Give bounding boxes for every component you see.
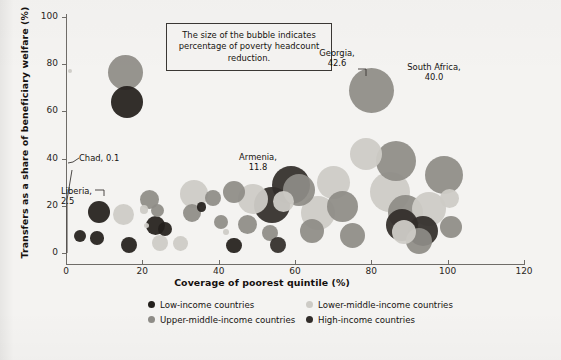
legend-row-2: Upper-middle-income countries High-incom… <box>148 315 468 326</box>
bubble-point[interactable] <box>300 219 324 243</box>
bubble-point[interactable] <box>349 68 394 113</box>
legend-dot-upper-middle-income <box>148 316 155 323</box>
bubble-point[interactable] <box>151 204 164 217</box>
x-tick-mark <box>524 260 525 264</box>
y-tick-label: 80 <box>24 58 58 68</box>
bubble-point[interactable] <box>340 223 365 248</box>
bubble-point[interactable] <box>392 220 416 244</box>
bubble-point[interactable] <box>440 189 459 208</box>
bubble-point[interactable] <box>121 237 137 253</box>
bubble-point[interactable] <box>214 215 228 229</box>
legend-label-upper-middle-income: Upper-middle-income countries <box>160 315 295 326</box>
bubble-point[interactable] <box>173 236 188 251</box>
x-tick-label: 100 <box>428 266 468 276</box>
label-armenia: Armenia, 11.8 <box>232 152 284 172</box>
x-tick-mark <box>219 260 220 264</box>
y-tick-mark <box>62 64 66 65</box>
bubble-size-callout: The size of the bubble indicates percent… <box>166 23 332 71</box>
bubble-point[interactable] <box>238 215 257 234</box>
x-tick-label: 40 <box>199 266 239 276</box>
y-axis-line <box>66 14 67 265</box>
bubble-point[interactable] <box>327 191 358 222</box>
bubble-point[interactable] <box>90 231 104 245</box>
bubble-point[interactable] <box>350 138 382 170</box>
x-tick-label: 20 <box>122 266 162 276</box>
y-tick-mark <box>62 253 66 254</box>
x-tick-label: 120 <box>504 266 544 276</box>
x-tick-mark <box>448 260 449 264</box>
chart-page: Transfers as a share of beneficiary welf… <box>0 0 561 360</box>
label-georgia: Georgia, 42.6 <box>316 48 358 68</box>
y-tick-label: 40 <box>24 153 58 163</box>
legend: Low-income countries Lower-middle-income… <box>148 300 468 329</box>
legend-item-lower-middle-income[interactable]: Lower-middle-income countries <box>306 300 464 311</box>
x-tick-label: 60 <box>275 266 315 276</box>
label-south-africa: South Africa, 40.0 <box>401 62 467 82</box>
bubble-point[interactable] <box>223 229 229 235</box>
bubble-point[interactable] <box>440 216 462 238</box>
bubble-point[interactable] <box>74 230 86 242</box>
x-tick-label: 0 <box>46 266 86 276</box>
x-tick-mark <box>66 260 67 264</box>
x-axis-title: Coverage of poorest quintile (%) <box>66 277 458 288</box>
y-tick-label: 60 <box>24 105 58 115</box>
bubble-point[interactable] <box>270 237 286 253</box>
legend-dot-high-income <box>306 316 313 323</box>
legend-item-high-income[interactable]: High-income countries <box>306 315 464 326</box>
bubble-point[interactable] <box>158 222 172 236</box>
legend-label-high-income: High-income countries <box>318 315 415 326</box>
bubble-point[interactable] <box>108 55 143 90</box>
bubble-point[interactable] <box>113 204 134 225</box>
label-liberia: Liberia, 2.5 <box>61 186 92 206</box>
y-tick-mark <box>62 17 66 18</box>
y-tick-label: 0 <box>24 247 58 257</box>
legend-label-lower-middle-income: Lower-middle-income countries <box>318 300 453 311</box>
page-margin-shade <box>0 0 14 360</box>
x-tick-label: 80 <box>351 266 391 276</box>
legend-label-low-income: Low-income countries <box>160 300 254 311</box>
x-tick-mark <box>142 260 143 264</box>
bubble-point[interactable] <box>376 141 416 181</box>
legend-item-upper-middle-income[interactable]: Upper-middle-income countries <box>148 315 306 326</box>
legend-dot-lower-middle-income <box>306 301 313 308</box>
bubble-point[interactable] <box>68 69 72 73</box>
legend-row-1: Low-income countries Lower-middle-income… <box>148 300 468 311</box>
bubble-point[interactable] <box>273 191 294 212</box>
bubble-point[interactable] <box>152 235 168 251</box>
bubble-point[interactable] <box>111 86 143 118</box>
x-axis-line <box>66 264 525 265</box>
y-tick-mark <box>62 159 66 160</box>
y-tick-label: 100 <box>24 11 58 21</box>
bubble-point[interactable] <box>226 238 241 253</box>
label-chad: Chad, 0.1 <box>79 153 119 163</box>
y-tick-label: 20 <box>24 200 58 210</box>
y-axis-title: Transfers as a share of beneficiary welf… <box>19 9 30 259</box>
x-tick-mark <box>295 260 296 264</box>
x-tick-mark <box>371 260 372 264</box>
bubble-point[interactable] <box>197 202 206 211</box>
legend-dot-low-income <box>148 301 155 308</box>
bubble-point[interactable] <box>140 205 148 213</box>
y-tick-mark <box>62 111 66 112</box>
legend-item-low-income[interactable]: Low-income countries <box>148 300 306 311</box>
bubble-point[interactable] <box>205 190 221 206</box>
bubble-point[interactable] <box>425 156 463 194</box>
bubble-point[interactable] <box>223 181 245 203</box>
